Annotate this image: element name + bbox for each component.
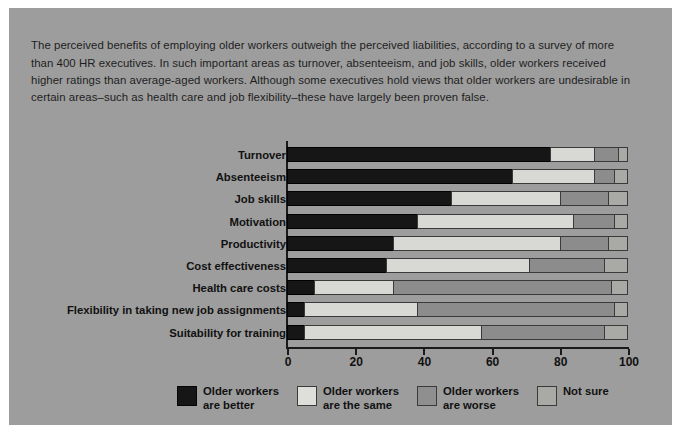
bar-segment-older-better xyxy=(287,280,314,295)
bar-segment-older-same xyxy=(304,325,481,340)
bar-segment-older-better xyxy=(287,258,386,273)
bar-segment-not-sure xyxy=(614,302,628,317)
legend-label: Older workers are worse xyxy=(443,385,519,412)
legend-label: Not sure xyxy=(563,385,609,399)
bar-segment-not-sure xyxy=(611,280,628,295)
bar-row xyxy=(287,280,628,295)
legend-item[interactable]: Older workers are worse xyxy=(417,385,519,412)
category-label: Flexibility in taking new job assignment… xyxy=(67,303,286,317)
x-axis-tick-label: 40 xyxy=(404,355,444,369)
category-label: Absenteeism xyxy=(216,170,286,184)
bar-segment-not-sure xyxy=(608,236,628,251)
bar-segment-older-worse xyxy=(560,236,608,251)
bar-segment-older-same xyxy=(393,236,560,251)
x-axis-tick-label: 0 xyxy=(268,355,308,369)
bar-segment-older-worse xyxy=(573,214,614,229)
bar-segment-older-better xyxy=(287,147,550,162)
bar-segment-older-same xyxy=(386,258,529,273)
category-label: Cost effectiveness xyxy=(186,259,286,273)
legend-item[interactable]: Older workers are the same xyxy=(297,385,399,412)
legend-label: Older workers are better xyxy=(203,385,279,412)
bar-segment-older-same xyxy=(512,169,594,184)
bar-segment-older-worse xyxy=(417,302,615,317)
bar-segment-not-sure xyxy=(608,191,628,206)
legend-label: Older workers are the same xyxy=(323,385,399,412)
x-axis-line xyxy=(287,347,629,349)
category-label: Suitability for training xyxy=(169,326,286,340)
category-label: Job skills xyxy=(235,192,287,206)
bar-segment-older-better xyxy=(287,214,417,229)
bar-segment-older-worse xyxy=(594,169,614,184)
category-label: Productivity xyxy=(221,237,286,251)
bar-segment-older-better xyxy=(287,191,451,206)
figure-panel: The perceived benefits of employing olde… xyxy=(9,8,672,425)
bar-row xyxy=(287,169,628,184)
bar-segment-older-same xyxy=(304,302,417,317)
bar-segment-older-better xyxy=(287,325,304,340)
bar-segment-not-sure xyxy=(618,147,628,162)
bar-segment-older-same xyxy=(417,214,574,229)
bar-segment-older-same xyxy=(314,280,392,295)
bar-segment-older-worse xyxy=(393,280,611,295)
bar-segment-older-better xyxy=(287,236,393,251)
bar-row xyxy=(287,147,628,162)
swatch-older-same-icon xyxy=(297,386,317,406)
bar-segment-older-worse xyxy=(560,191,608,206)
bar-row xyxy=(287,302,628,317)
category-label: Health care costs xyxy=(192,281,286,295)
bar-segment-not-sure xyxy=(614,214,628,229)
bar-segment-not-sure xyxy=(604,258,628,273)
bar-row xyxy=(287,325,628,340)
bar-segment-not-sure xyxy=(614,169,628,184)
bar-row xyxy=(287,236,628,251)
bar-row xyxy=(287,258,628,273)
x-axis-tick-label: 20 xyxy=(336,355,376,369)
bar-row xyxy=(287,191,628,206)
bar-row xyxy=(287,214,628,229)
category-label: Motivation xyxy=(230,215,286,229)
bar-segment-older-same xyxy=(451,191,560,206)
stacked-bar-chart: TurnoverAbsenteeismJob skillsMotivationP… xyxy=(9,8,672,425)
legend-item[interactable]: Older workers are better xyxy=(177,385,279,412)
bar-segment-older-worse xyxy=(529,258,604,273)
x-axis-tick-label: 100 xyxy=(609,355,649,369)
legend-item[interactable]: Not sure xyxy=(537,385,609,406)
category-label: Turnover xyxy=(238,148,286,162)
swatch-not-sure-icon xyxy=(537,386,557,406)
chart-legend: Older workers are betterOlder workers ar… xyxy=(177,385,609,412)
bar-segment-not-sure xyxy=(604,325,628,340)
bar-segment-older-same xyxy=(550,147,594,162)
swatch-older-better-icon xyxy=(177,386,197,406)
bar-segment-older-worse xyxy=(481,325,604,340)
bar-segment-older-better xyxy=(287,169,512,184)
bar-segment-older-worse xyxy=(594,147,618,162)
bar-segment-older-better xyxy=(287,302,304,317)
swatch-older-worse-icon xyxy=(417,386,437,406)
x-axis-tick-label: 60 xyxy=(473,355,513,369)
x-axis-tick-label: 80 xyxy=(541,355,581,369)
